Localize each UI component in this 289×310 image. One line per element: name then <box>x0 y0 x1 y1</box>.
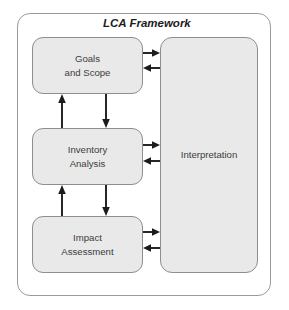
framework-title: LCA Framework <box>103 16 213 30</box>
stage-box-impact-assessment[interactable]: Impact Assessment <box>32 216 143 273</box>
stage-label-interpretation: Interpretation <box>181 148 238 162</box>
stage-label-inventory-line1: Inventory <box>68 143 107 157</box>
stage-box-interpretation[interactable]: Interpretation <box>160 37 258 273</box>
stage-box-inventory-analysis[interactable]: Inventory Analysis <box>32 128 143 185</box>
stage-label-inventory-line2: Analysis <box>70 157 106 171</box>
stage-box-goals-and-scope[interactable]: Goals and Scope <box>32 37 143 94</box>
lca-framework-diagram: LCA Framework Goals and Scope Inventory … <box>0 0 289 310</box>
stage-label-impact-line1: Impact <box>73 231 102 245</box>
stage-label-goals-line1: Goals <box>75 52 100 66</box>
stage-label-impact-line2: Assessment <box>61 245 113 259</box>
stage-label-goals-line2: and Scope <box>65 66 111 80</box>
